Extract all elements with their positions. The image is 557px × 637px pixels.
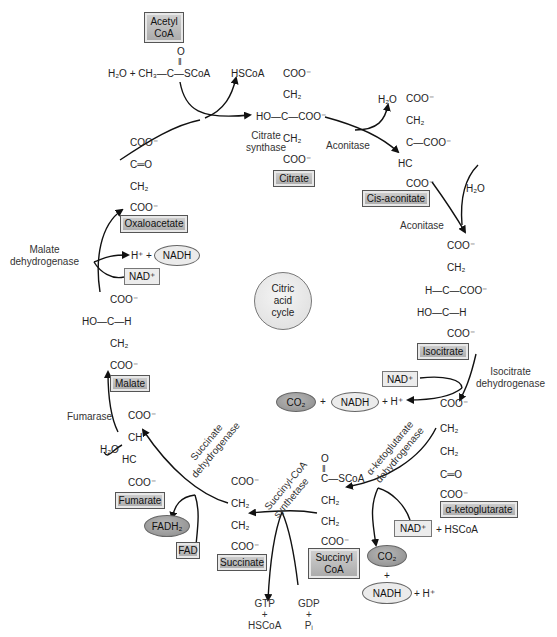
acetyl-double-bond: ‖ (178, 56, 182, 68)
nad-plus-isocitrate: NAD⁺ (382, 371, 418, 387)
akg-struct-4: C═O (440, 469, 462, 481)
gtp-label: GTP (248, 598, 281, 609)
pi-label: Pᵢ (298, 620, 320, 631)
malate-struct-1: COO⁻ (110, 294, 138, 306)
acetyl-coa-label-line2: CoA (150, 28, 177, 40)
cis-aconitate-box: Cis-aconitate (362, 190, 430, 207)
center-line2: acid (272, 295, 295, 307)
fumarase-label: Fumarase (67, 411, 112, 423)
citrate-box: Citrate (273, 170, 315, 187)
plus-akg: + (384, 570, 390, 582)
fumarate-struct-2: CH (128, 432, 142, 444)
isocitrate-struct-1: COO⁻ (447, 240, 475, 252)
citric-acid-cycle-center: Citric acid cycle (254, 272, 312, 330)
fumarate-struct-3: HC (122, 454, 136, 466)
fadh2-ellipse: FADH₂ (144, 515, 190, 537)
citrate-synthase-label: Citrate synthase (246, 130, 286, 154)
plus-hscoa-akg: + HSCoA (436, 524, 478, 536)
h-plus-malate: H⁺ + (131, 250, 152, 262)
fumarate-struct-1: COO⁻ (128, 410, 156, 422)
isocitrate-dehydrogenase-label: Isocitrate dehydrogenase (476, 366, 545, 390)
aconitase-label-1: Aconitase (326, 140, 370, 152)
isocitrate-struct-5: COO⁻ (447, 328, 475, 340)
isocitrate-struct-3: H—C—COO⁻ (425, 285, 487, 297)
isocitrate-dehydrogenase-line1: Isocitrate (476, 366, 545, 378)
alpha-ketoglutarate-box: α-ketoglutarate (440, 501, 518, 518)
nad-plus-akg: NAD⁺ (394, 520, 432, 537)
akg-struct-3: CH₂ (440, 446, 458, 458)
aconitase-water-in: H₂O (466, 183, 485, 195)
gtp-plus: + (248, 609, 281, 620)
gdp-reactants: GDP + Pᵢ (298, 598, 320, 631)
cis-aconitate-water: H₂O (378, 94, 397, 106)
succinyl-coa-line2: CoA (315, 564, 352, 576)
oxaloacetate-struct-2: C═O (130, 159, 152, 171)
oxaloacetate-struct-4: COO⁻ (130, 202, 158, 214)
acetyl-coa-box: AcetylCoA (144, 12, 184, 43)
center-line1: Citric (272, 283, 295, 295)
oxaloacetate-struct-3: CH₂ (130, 181, 148, 193)
isocitrate-struct-2: CH₂ (447, 262, 465, 274)
succinyl-coa-struct-4: CH₂ (321, 516, 339, 528)
oxaloacetate-box: Oxaloacetate (120, 215, 188, 233)
h-plus-akg: + H⁺ (414, 588, 435, 600)
citrate-synthase-line2: synthase (246, 142, 286, 154)
succinate-struct-1: COO⁻ (231, 476, 259, 488)
fumarate-box: Fumarate (115, 492, 165, 509)
succinyl-coa-struct-5: COO⁻ (321, 536, 349, 548)
succinate-struct-2: CH₂ (231, 498, 249, 510)
akg-struct-1: COO⁻ (440, 398, 468, 410)
oxaloacetate-struct-1: COO⁻ (130, 137, 158, 149)
citrate-struct-5: COO⁻ (283, 154, 311, 166)
succinate-box: Succinate (217, 554, 267, 571)
nad-plus-malate: NAD⁺ (124, 268, 160, 285)
center-line3: cycle (272, 307, 295, 319)
malate-struct-3: CH₂ (110, 338, 128, 350)
gtp-hscoa: HSCoA (248, 620, 281, 631)
succinate-struct-3: CH₂ (231, 520, 249, 532)
acetyl-coa-label-line1: Acetyl (150, 16, 177, 28)
akg-struct-2: CH₂ (440, 423, 458, 435)
cis-aconitate-struct-2: CH₂ (406, 115, 424, 127)
malate-box: Malate (110, 375, 150, 392)
succinyl-coa-struct-2: C—SCoA (321, 473, 364, 485)
h-plus-isocitrate: + H⁺ (382, 396, 403, 408)
plus-isocitrate: + (320, 396, 326, 408)
malate-struct-4: COO⁻ (110, 360, 138, 372)
isocitrate-box: Isocitrate (417, 343, 469, 360)
cis-aconitate-struct-1: COO⁻ (406, 93, 434, 105)
malate-dehydrogenase-line1: Malate (10, 244, 79, 256)
malate-dehydrogenase-line2: dehydrogenase (10, 256, 79, 268)
akg-struct-5: COO⁻ (440, 489, 468, 501)
aconitase-label-2: Aconitase (400, 220, 444, 232)
isocitrate-struct-4: HO—C—H (417, 307, 466, 319)
hscoa-product: HSCoA (231, 68, 264, 80)
cis-aconitate-struct-3: C—COO⁻ (406, 137, 451, 149)
citrate-struct-2: CH₂ (283, 89, 301, 101)
nadh-isocitrate: NADH (331, 392, 379, 412)
malate-dehydrogenase-label: Malate dehydrogenase (10, 244, 79, 268)
citrate-struct-1: COO⁻ (283, 68, 311, 80)
isocitrate-dehydrogenase-line2: dehydrogenase (476, 378, 545, 390)
citrate-struct-3: HO—C—COO⁻ (256, 111, 326, 123)
succinyl-coa-box: SuccinylCoA (308, 548, 360, 579)
cis-aconitate-struct-5: COO⁻ (406, 178, 434, 190)
malate-struct-2: HO—C—H (82, 316, 131, 328)
fumarate-struct-4: COO⁻ (128, 477, 156, 489)
succinyl-coa-line1: Succinyl (315, 552, 352, 564)
citrate-synthase-line1: Citrate (246, 130, 286, 142)
gdp-label: GDP (298, 598, 320, 609)
gtp-products: GTP + HSCoA (248, 598, 281, 631)
fumarate-water: H₂O (100, 444, 119, 456)
succinyl-coa-struct-3: CH₂ (321, 495, 339, 507)
succinate-struct-4: COO⁻ (231, 541, 259, 553)
fad-box: FAD (176, 542, 200, 559)
nadh-akg: NADH (362, 582, 412, 604)
acetyl-reactants: H₂O + CH₃—C—SCoA (108, 68, 210, 80)
nadh-malate: NADH (154, 245, 200, 266)
cis-aconitate-struct-4: HC (398, 158, 412, 170)
co2-akg: CO₂ (367, 545, 407, 567)
gdp-plus: + (298, 609, 320, 620)
co2-isocitrate: CO₂ (276, 392, 316, 412)
